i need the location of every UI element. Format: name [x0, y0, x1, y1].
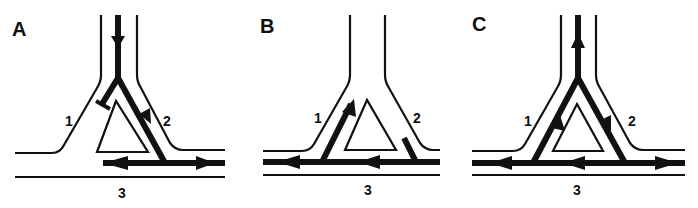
flow-blocked-branch-2 — [404, 138, 416, 162]
arrow-left-icon — [103, 156, 128, 170]
branch-label-2: 2 — [628, 113, 636, 129]
arrow-left-icon — [277, 155, 300, 169]
branch-label-1: 1 — [65, 113, 73, 129]
arrow-left-icon — [490, 156, 512, 170]
panel-label-b: B — [260, 15, 274, 37]
road-edge-right — [385, 15, 440, 150]
panel-label-c: C — [472, 13, 486, 35]
branch-label-3: 3 — [573, 182, 581, 198]
arrow-up-icon — [571, 33, 585, 48]
panel-label-a: A — [12, 18, 26, 40]
traffic-island — [97, 101, 148, 152]
arrow-left-icon-2 — [563, 156, 585, 170]
branch-label-3: 3 — [118, 185, 126, 201]
branch-label-1: 1 — [314, 110, 322, 126]
branch-label-3: 3 — [364, 182, 372, 198]
arrow-down-icon — [111, 36, 125, 48]
arrow-right-icon — [655, 156, 678, 170]
panel-c: C 1 2 3 — [472, 13, 685, 198]
road-edge-right — [137, 15, 225, 150]
road-edge-left — [15, 15, 101, 153]
junction-diagram: A 1 2 3 B 1 2 3 C — [0, 0, 698, 208]
branch-label-2: 2 — [163, 113, 171, 129]
branch-label-1: 1 — [524, 113, 532, 129]
arrow-right-icon — [196, 156, 215, 170]
arrow-left-icon-2 — [358, 155, 380, 169]
branch-label-2: 2 — [413, 110, 421, 126]
panel-b: B 1 2 3 — [260, 15, 440, 198]
panel-a: A 1 2 3 — [12, 15, 225, 201]
